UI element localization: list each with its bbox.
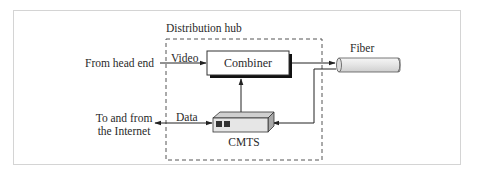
internet-label-line1: To and from — [94, 112, 154, 125]
combiner-label: Combiner — [207, 51, 289, 75]
head-end-label: From head end — [60, 57, 154, 70]
cmts-label: CMTS — [222, 136, 266, 149]
fiber-label: Fiber — [350, 42, 374, 55]
data-label: Data — [176, 111, 198, 124]
video-label: Video — [171, 52, 198, 65]
internet-label-line2: the Internet — [94, 125, 154, 138]
cmts-device — [213, 112, 274, 132]
distribution-hub-label: Distribution hub — [166, 22, 242, 35]
fiber-cable — [337, 58, 401, 72]
cmts-port-icon — [224, 121, 230, 127]
cmts-port-icon — [216, 121, 222, 127]
